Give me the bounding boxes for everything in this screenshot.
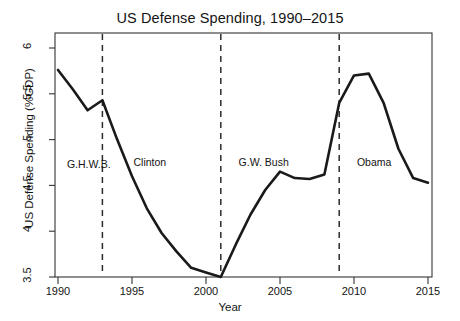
era-label: G.W. Bush — [239, 156, 289, 168]
x-axis-ticks — [58, 277, 428, 284]
x-axis-title: Year — [0, 301, 460, 313]
x-tick-label: 2015 — [398, 285, 458, 297]
y-tick-label: 6 — [21, 26, 33, 66]
x-tick-label: 2005 — [250, 285, 310, 297]
era-label: G.H.W.B. — [67, 158, 111, 170]
x-tick-label: 1995 — [102, 285, 162, 297]
x-tick-label: 1990 — [28, 285, 88, 297]
y-tick-label: 5 — [21, 118, 33, 158]
y-tick-label: 4 — [21, 209, 33, 249]
chart-title: US Defense Spending, 1990–2015 — [0, 10, 460, 26]
y-tick-label: 5.5 — [21, 72, 33, 112]
y-tick-label: 4.5 — [21, 163, 33, 203]
era-label: Clinton — [133, 156, 166, 168]
y-axis-ticks — [49, 48, 55, 277]
era-label: Obama — [357, 156, 391, 168]
x-tick-label: 2010 — [324, 285, 384, 297]
x-tick-label: 2000 — [176, 285, 236, 297]
defense-spending-chart-figure: US Defense Spending, 1990–2015 US Defens… — [0, 0, 460, 321]
spending-series-line — [58, 70, 428, 277]
